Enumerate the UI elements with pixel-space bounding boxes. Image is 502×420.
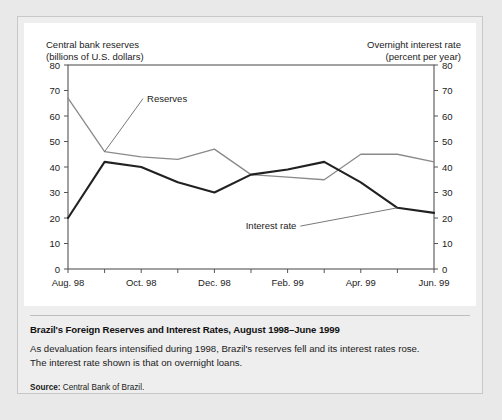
x-tick-label: Dec. 98 (198, 277, 231, 288)
y-tick-label-left: 30 (49, 187, 60, 198)
x-tick-label: Apr. 99 (346, 277, 376, 288)
series-annotation-label: Interest rate (246, 220, 297, 231)
series-line-interest-rate (68, 162, 434, 218)
y-tick-label-right: 80 (442, 60, 453, 71)
y-tick-label-right: 70 (442, 85, 453, 96)
source-label: Source: (30, 383, 60, 392)
x-tick-label: Aug. 98 (52, 277, 85, 288)
y-tick-label-right: 0 (442, 264, 447, 275)
x-tick-label: Feb. 99 (271, 277, 303, 288)
y-tick-label-right: 60 (442, 111, 453, 122)
figure-card: Central bank reserves (billions of U.S. … (17, 16, 483, 394)
source-text: Central Bank of Brazil. (63, 383, 144, 392)
series-annotation-label: Reserves (147, 93, 187, 104)
plot-frame (68, 65, 434, 269)
y-tick-label-right: 40 (442, 162, 453, 173)
y-tick-label-left: 10 (49, 238, 60, 249)
source-line: Source: Central Bank of Brazil. (30, 383, 470, 392)
y-tick-label-left: 70 (49, 85, 60, 96)
caption-block: Brazil's Foreign Reserves and Interest R… (30, 315, 470, 369)
y-tick-label-right: 20 (442, 213, 453, 224)
y-tick-label-left: 50 (49, 136, 60, 147)
y-tick-label-left: 40 (49, 162, 60, 173)
x-tick-label: Oct. 98 (126, 277, 157, 288)
y-tick-label-right: 50 (442, 136, 453, 147)
series-line-reserves (68, 98, 434, 180)
y-tick-label-left: 20 (49, 213, 60, 224)
annotation-leader-line (105, 99, 143, 152)
caption-title: Brazil's Foreign Reserves and Interest R… (30, 324, 470, 335)
chart-plot-area: Central bank reserves (billions of U.S. … (24, 23, 476, 306)
y-tick-label-right: 30 (442, 187, 453, 198)
y-tick-label-left: 0 (55, 264, 60, 275)
annotation-leader-line (300, 208, 397, 226)
caption-body: As devaluation fears intensified during … (30, 342, 428, 369)
y-tick-label-right: 10 (442, 238, 453, 249)
x-tick-label: Jun. 99 (418, 277, 449, 288)
figure-root: Central bank reserves (billions of U.S. … (0, 0, 502, 420)
y-tick-label-left: 60 (49, 111, 60, 122)
line-chart: 0010102020303040405050606070708080Aug. 9… (24, 23, 478, 306)
y-tick-label-left: 80 (49, 60, 60, 71)
